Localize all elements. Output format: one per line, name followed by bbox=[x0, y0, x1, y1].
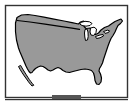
us-map-thumbnail[interactable]: United States bbox=[0, 0, 134, 105]
bottom-rule bbox=[5, 99, 128, 100]
lake-michigan bbox=[85, 29, 89, 41]
lake-superior bbox=[80, 21, 92, 26]
map-canvas bbox=[0, 0, 134, 105]
